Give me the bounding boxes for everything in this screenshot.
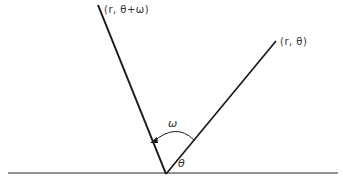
label-rotation-angle: ω bbox=[168, 117, 177, 130]
rotation-arc bbox=[153, 131, 194, 142]
ray-original bbox=[166, 41, 276, 174]
ray-rotated bbox=[98, 5, 166, 174]
label-original-point: (r, θ) bbox=[280, 36, 307, 47]
label-polar-angle: θ bbox=[178, 157, 185, 170]
rotation-diagram bbox=[0, 0, 343, 184]
label-rotated-point: (r, θ+ω) bbox=[104, 4, 149, 15]
